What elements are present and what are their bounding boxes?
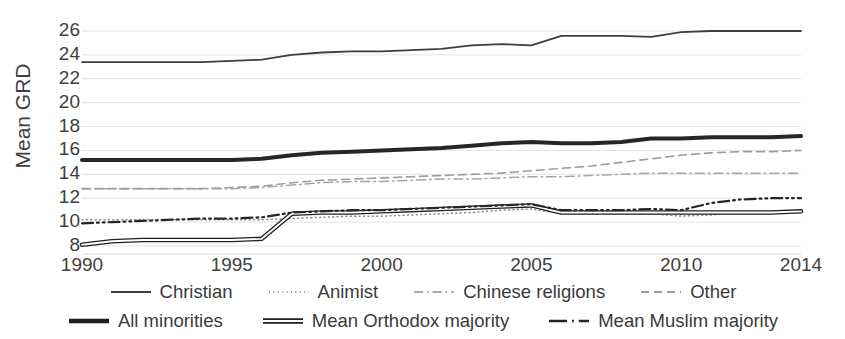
legend-swatch-icon xyxy=(109,284,153,300)
legend-item-chinese-religions[interactable]: Chinese religions xyxy=(412,281,605,303)
legend-item-label: Mean Muslim majority xyxy=(598,310,778,332)
legend-line-swatch xyxy=(109,284,153,300)
x-tick-2010: 2010 xyxy=(660,254,702,276)
legend-item-other[interactable]: Other xyxy=(639,281,736,303)
legend-item-christian[interactable]: Christian xyxy=(109,281,233,303)
legend-item-animist[interactable]: Animist xyxy=(267,281,379,303)
series-mean-orthodox-majority xyxy=(82,205,801,244)
legend-line-swatch xyxy=(67,313,111,329)
series-chinese-religions xyxy=(82,173,801,189)
x-tick-2000: 2000 xyxy=(360,254,402,276)
x-tick-2005: 2005 xyxy=(510,254,552,276)
legend-item-label: Chinese religions xyxy=(463,281,605,303)
legend-swatch-icon xyxy=(261,313,305,329)
legend-item-label: Mean Orthodox majority xyxy=(312,310,509,332)
legend-row-primary: ChristianAnimistChinese religionsOther xyxy=(0,277,845,306)
series-other xyxy=(82,150,801,188)
legend-line-swatch xyxy=(639,284,683,300)
legend-item-mean-orthodox-majority[interactable]: Mean Orthodox majority xyxy=(261,310,509,332)
legend-item-label: Animist xyxy=(318,281,379,303)
data-series-group xyxy=(82,31,801,245)
legend-item-mean-muslim-majority[interactable]: Mean Muslim majority xyxy=(547,310,778,332)
chart-legend: ChristianAnimistChinese religionsOther A… xyxy=(0,277,845,335)
legend-line-swatch xyxy=(412,284,456,300)
legend-row-secondary: All minoritiesMean Orthodox majorityMean… xyxy=(0,306,845,335)
legend-item-all-minorities[interactable]: All minorities xyxy=(67,310,223,332)
legend-swatch-icon xyxy=(267,284,311,300)
series-all-minorities xyxy=(82,136,801,160)
gridlines xyxy=(82,31,801,254)
line-chart: Mean GRD 2624222018161412108 19901995200… xyxy=(0,0,845,339)
legend-swatch-icon xyxy=(639,284,683,300)
legend-item-label: Christian xyxy=(160,281,233,303)
series-christian xyxy=(82,31,801,62)
x-tick-1995: 1995 xyxy=(211,254,253,276)
x-tick-2014: 2014 xyxy=(780,254,822,276)
legend-line-swatch xyxy=(547,313,591,329)
legend-line-swatch xyxy=(261,313,305,329)
x-tick-1990: 1990 xyxy=(61,254,103,276)
legend-item-label: Other xyxy=(690,281,736,303)
legend-line-swatch xyxy=(267,284,311,300)
legend-item-label: All minorities xyxy=(118,310,223,332)
legend-swatch-icon xyxy=(412,284,456,300)
legend-swatch-icon xyxy=(547,313,591,329)
legend-swatch-icon xyxy=(67,313,111,329)
